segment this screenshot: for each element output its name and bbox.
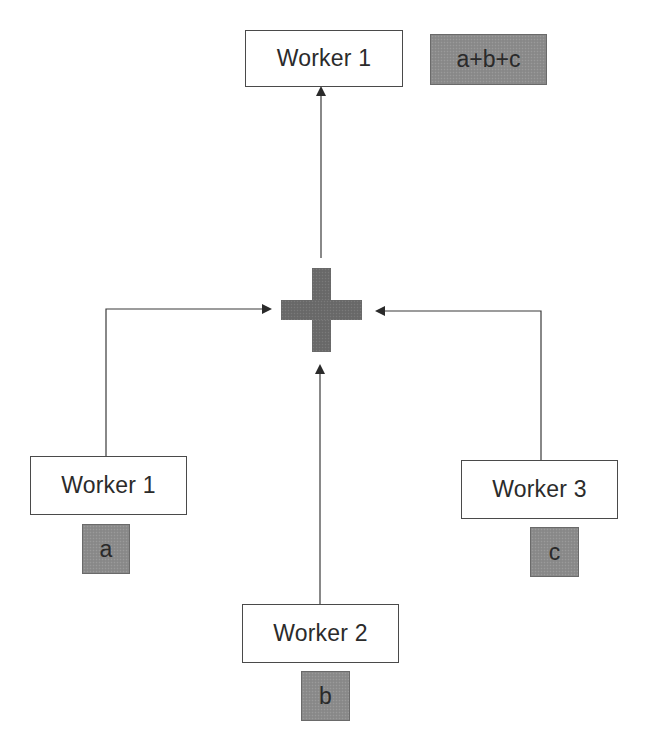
input-worker-1-box: Worker 1 xyxy=(30,456,187,515)
input-worker-3-box: Worker 3 xyxy=(461,460,618,519)
input-value-c-box: c xyxy=(530,527,579,577)
diagram-canvas: Worker 1 a+b+c Worker 1 a Worker 2 b Wor… xyxy=(0,0,646,752)
input-worker-2-box: Worker 2 xyxy=(242,604,399,663)
result-worker-box: Worker 1 xyxy=(245,30,403,87)
result-value-box: a+b+c xyxy=(430,34,547,85)
plus-icon-horizontal-bar xyxy=(281,300,362,320)
edge-worker1-to-plus xyxy=(106,309,270,456)
input-value-b-box: b xyxy=(301,671,350,721)
input-value-a-box: a xyxy=(82,524,130,574)
edge-worker3-to-plus xyxy=(377,311,541,460)
plus-icon xyxy=(281,268,362,352)
